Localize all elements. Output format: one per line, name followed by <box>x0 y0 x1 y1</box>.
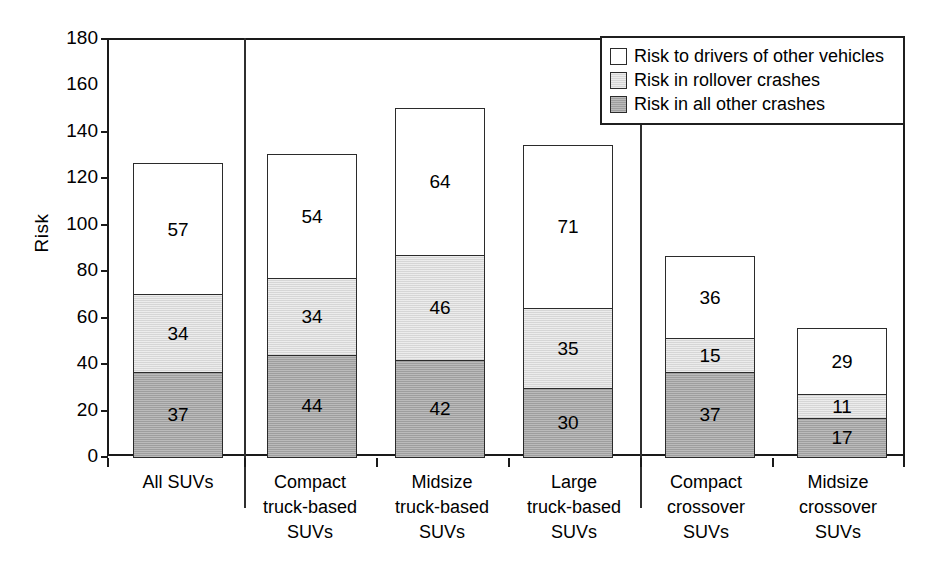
white-swatch-icon <box>610 48 627 65</box>
bar-value-label: 34 <box>167 323 188 345</box>
x-label-line: SUVs <box>768 520 908 545</box>
bar-value-label: 15 <box>699 345 720 367</box>
bar-segment-other-vehicles[interactable]: 71 <box>523 145 613 310</box>
x-label-line: Midsize <box>768 470 908 495</box>
bar-segment-other-vehicles[interactable]: 29 <box>797 328 887 395</box>
bar-value-label: 71 <box>557 216 578 238</box>
dark-gray-swatch-icon <box>610 96 627 113</box>
x-tick-1 <box>244 458 246 467</box>
x-label-line: truck-based <box>504 495 644 520</box>
bar-value-label: 44 <box>301 395 322 417</box>
bar-value-label: 54 <box>301 206 322 228</box>
y-tick-label-0: 0 <box>34 446 98 465</box>
y-tick-label-180: 180 <box>34 28 98 47</box>
x-label-line: SUVs <box>240 520 380 545</box>
y-tick-label-100: 100 <box>34 214 98 233</box>
bar-value-label: 46 <box>429 297 450 319</box>
x-label-line: Large <box>504 470 644 495</box>
bar-value-label: 35 <box>557 338 578 360</box>
bar-segment-other-crashes[interactable]: 37 <box>665 372 755 458</box>
x-tick-5 <box>772 458 774 467</box>
x-tick-2 <box>376 458 378 467</box>
bar-value-label: 34 <box>301 306 322 328</box>
bar-midsize-crossover-suvs[interactable]: 29 11 17 <box>797 328 887 456</box>
x-label-line: truck-based <box>372 495 512 520</box>
x-tick-4 <box>640 458 642 467</box>
bar-value-label: 17 <box>831 427 852 449</box>
bar-value-label: 37 <box>699 404 720 426</box>
stacked-bar-chart: Risk 180 160 140 120 100 80 60 40 20 0 5… <box>0 0 934 572</box>
bar-segment-rollover[interactable]: 34 <box>267 278 357 357</box>
y-tick-label-80: 80 <box>34 260 98 279</box>
bar-value-label: 57 <box>167 219 188 241</box>
bar-value-label: 29 <box>831 351 852 373</box>
x-category-label-large-truck-based: Large truck-based SUVs <box>504 470 644 545</box>
x-category-label-all-suvs: All SUVs <box>108 470 248 495</box>
legend-item-rollover[interactable]: Risk in rollover crashes <box>610 68 895 92</box>
legend-label: Risk in all other crashes <box>634 94 825 115</box>
x-label-line: Compact <box>636 470 776 495</box>
bar-midsize-truck-based-suvs[interactable]: 64 46 42 <box>395 108 485 456</box>
x-category-label-midsize-truck-based: Midsize truck-based SUVs <box>372 470 512 545</box>
bar-large-truck-based-suvs[interactable]: 71 35 30 <box>523 145 613 456</box>
x-category-label-compact-truck-based: Compact truck-based SUVs <box>240 470 380 545</box>
x-label-line: truck-based <box>240 495 380 520</box>
bar-compact-crossover-suvs[interactable]: 36 15 37 <box>665 256 755 456</box>
legend-label: Risk in rollover crashes <box>634 70 820 91</box>
bar-segment-other-vehicles[interactable]: 64 <box>395 108 485 257</box>
bar-value-label: 30 <box>557 412 578 434</box>
bar-segment-other-crashes[interactable]: 30 <box>523 388 613 458</box>
y-tick-label-120: 120 <box>34 167 98 186</box>
group-separator-1 <box>244 38 246 508</box>
y-tick-label-160: 160 <box>34 74 98 93</box>
light-gray-swatch-icon <box>610 72 627 89</box>
bar-segment-rollover[interactable]: 35 <box>523 308 613 389</box>
bar-segment-other-vehicles[interactable]: 54 <box>267 154 357 279</box>
x-category-label-compact-crossover: Compact crossover SUVs <box>636 470 776 545</box>
x-tick-0 <box>107 458 109 467</box>
legend-label: Risk to drivers of other vehicles <box>634 46 884 67</box>
bar-segment-rollover[interactable]: 15 <box>665 338 755 373</box>
bar-value-label: 42 <box>429 398 450 420</box>
bar-segment-other-crashes[interactable]: 17 <box>797 418 887 458</box>
bar-segment-other-crashes[interactable]: 44 <box>267 355 357 457</box>
x-label-line: Midsize <box>372 470 512 495</box>
y-axis: Risk 180 160 140 120 100 80 60 40 20 0 <box>20 0 98 572</box>
bar-segment-other-crashes[interactable]: 37 <box>133 372 223 458</box>
x-label-line: crossover <box>636 495 776 520</box>
y-tick-label-20: 20 <box>34 400 98 419</box>
x-label-line: crossover <box>768 495 908 520</box>
bar-value-label: 37 <box>167 404 188 426</box>
bar-value-label: 36 <box>699 287 720 309</box>
y-tick-label-60: 60 <box>34 307 98 326</box>
bar-compact-truck-based-suvs[interactable]: 54 34 44 <box>267 154 357 456</box>
x-label-line: All SUVs <box>108 470 248 495</box>
bar-all-suvs[interactable]: 57 34 37 <box>133 163 223 456</box>
y-tick-label-140: 140 <box>34 121 98 140</box>
y-tick-label-40: 40 <box>34 353 98 372</box>
x-tick-6 <box>903 458 905 467</box>
legend-item-other-vehicles[interactable]: Risk to drivers of other vehicles <box>610 44 895 68</box>
x-label-line: SUVs <box>504 520 644 545</box>
bar-segment-rollover[interactable]: 46 <box>395 255 485 362</box>
bar-segment-other-crashes[interactable]: 42 <box>395 360 485 458</box>
x-tick-3 <box>508 458 510 467</box>
bar-segment-rollover[interactable]: 34 <box>133 294 223 373</box>
x-label-line: SUVs <box>636 520 776 545</box>
bar-value-label: 64 <box>429 171 450 193</box>
bar-segment-rollover[interactable]: 11 <box>797 394 887 420</box>
chart-legend: Risk to drivers of other vehicles Risk i… <box>600 36 905 125</box>
bar-segment-other-vehicles[interactable]: 36 <box>665 256 755 340</box>
bar-segment-other-vehicles[interactable]: 57 <box>133 163 223 295</box>
x-category-label-midsize-crossover: Midsize crossover SUVs <box>768 470 908 545</box>
x-label-line: Compact <box>240 470 380 495</box>
legend-item-other-crashes[interactable]: Risk in all other crashes <box>610 92 895 116</box>
bar-value-label: 11 <box>832 396 852 418</box>
x-label-line: SUVs <box>372 520 512 545</box>
